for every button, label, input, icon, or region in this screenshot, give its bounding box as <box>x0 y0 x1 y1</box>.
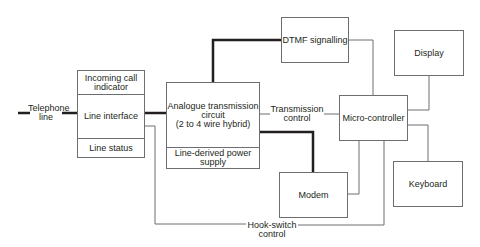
analogue-to-dtmf <box>213 40 281 82</box>
modem-block: Modem <box>279 172 348 218</box>
micro-to-modem <box>347 140 359 194</box>
analogue-transmission-circuit: Analogue transmission circuit (2 to 4 wi… <box>167 83 259 147</box>
display-to-micro <box>407 75 429 110</box>
incoming-call-indicator: Incoming call indicator <box>78 71 144 94</box>
keyboard-block: Keyboard <box>393 161 463 207</box>
dtmf-signalling-block: DTMF signalling <box>281 17 349 63</box>
transmission-control-label: Transmission control <box>268 105 326 123</box>
line-status: Line status <box>78 138 144 157</box>
line-derived-power-supply: Line-derived power supply <box>167 147 259 168</box>
micro-to-keyboard <box>407 125 428 161</box>
keyboard-label: Keyboard <box>394 162 462 206</box>
telephone-line-label: Telephone line <box>28 104 64 122</box>
dtmf-to-micro <box>348 40 373 95</box>
display-block: Display <box>394 30 464 76</box>
display-label: Display <box>395 31 463 75</box>
analogue-transmission-block: Analogue transmission circuit (2 to 4 wi… <box>166 82 260 169</box>
micro-controller-block: Micro-controller <box>339 95 408 141</box>
micro-controller-label: Micro-controller <box>340 96 407 140</box>
line-interface-block: Incoming call indicator Line interface L… <box>77 70 145 158</box>
analogue-to-modem <box>259 132 313 172</box>
dtmf-signalling-label: DTMF signalling <box>282 18 348 62</box>
hook-switch-control-label: Hook-switch control <box>246 221 298 239</box>
modem-label: Modem <box>280 173 347 217</box>
line-interface: Line interface <box>78 94 144 138</box>
